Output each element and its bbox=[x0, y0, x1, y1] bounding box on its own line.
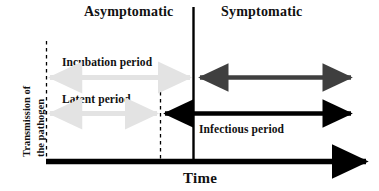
diagram-vectors bbox=[0, 0, 379, 191]
diagram-canvas: Asymptomatic Symptomatic Transmission of… bbox=[0, 0, 379, 191]
